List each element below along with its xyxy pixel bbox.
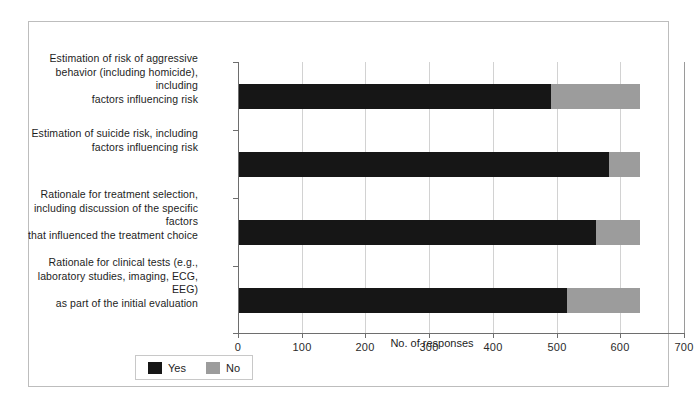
plot-area: 0 100 200 300 400 500 600 700 — [238, 62, 684, 334]
category-label-line: as part of the initial evaluation — [12, 297, 198, 311]
category-label-line: Estimation of suicide risk, including — [12, 127, 198, 141]
bar-row[interactable] — [239, 288, 640, 313]
category-label-line: Rationale for clinical tests (e.g., — [12, 256, 198, 270]
category-label-line: behavior (including homicide), including — [12, 66, 198, 93]
category-label-line: Estimation of risk of aggressive — [12, 52, 198, 66]
x-tick-label-700: 700 — [675, 341, 694, 353]
legend-label-no: No — [226, 362, 240, 374]
y-tick-1 — [233, 130, 238, 131]
bar-segment-yes[interactable] — [239, 152, 609, 177]
bar-row[interactable] — [239, 152, 640, 177]
plot-right-edge — [684, 62, 685, 334]
bar-segment-no[interactable] — [609, 152, 641, 177]
figure-container: 0 100 200 300 400 500 600 700 — [0, 0, 697, 409]
legend-swatch-yes-icon — [148, 362, 162, 374]
legend-label-yes: Yes — [168, 362, 186, 374]
y-tick-0 — [233, 62, 238, 63]
bar-segment-yes[interactable] — [239, 288, 567, 313]
category-label-2: Rationale for treatment selection, inclu… — [12, 188, 198, 242]
category-label-line: laboratory studies, imaging, ECG, EEG) — [12, 270, 198, 297]
category-label-1: Estimation of suicide risk, including fa… — [12, 127, 198, 154]
bar-segment-no[interactable] — [596, 220, 641, 245]
category-label-line: factors influencing risk — [12, 141, 198, 155]
category-label-line: factors influencing risk — [12, 93, 198, 107]
category-label-0: Estimation of risk of aggressive behavio… — [12, 52, 198, 106]
x-axis-title: No. of responses — [209, 337, 655, 349]
category-label-line: including discussion of the specific fac… — [12, 202, 198, 229]
bar-segment-no[interactable] — [567, 288, 640, 313]
legend-item-no[interactable]: No — [206, 362, 240, 374]
legend-swatch-no-icon — [206, 362, 220, 374]
bar-segment-yes[interactable] — [239, 84, 551, 109]
legend-item-yes[interactable]: Yes — [148, 362, 186, 374]
chart-legend: Yes No — [135, 355, 253, 380]
bar-row[interactable] — [239, 84, 640, 109]
bar-segment-yes[interactable] — [239, 220, 596, 245]
category-label-line: that influenced the treatment choice — [12, 229, 198, 243]
x-tick-700 — [684, 333, 685, 338]
bar-segment-no[interactable] — [551, 84, 640, 109]
category-label-line: Rationale for treatment selection, — [12, 188, 198, 202]
chart-frame: 0 100 200 300 400 500 600 700 — [28, 21, 669, 387]
bar-row[interactable] — [239, 220, 640, 245]
x-axis-line — [238, 333, 685, 334]
y-tick-2 — [233, 198, 238, 199]
y-tick-3 — [233, 266, 238, 267]
category-label-3: Rationale for clinical tests (e.g., labo… — [12, 256, 198, 310]
